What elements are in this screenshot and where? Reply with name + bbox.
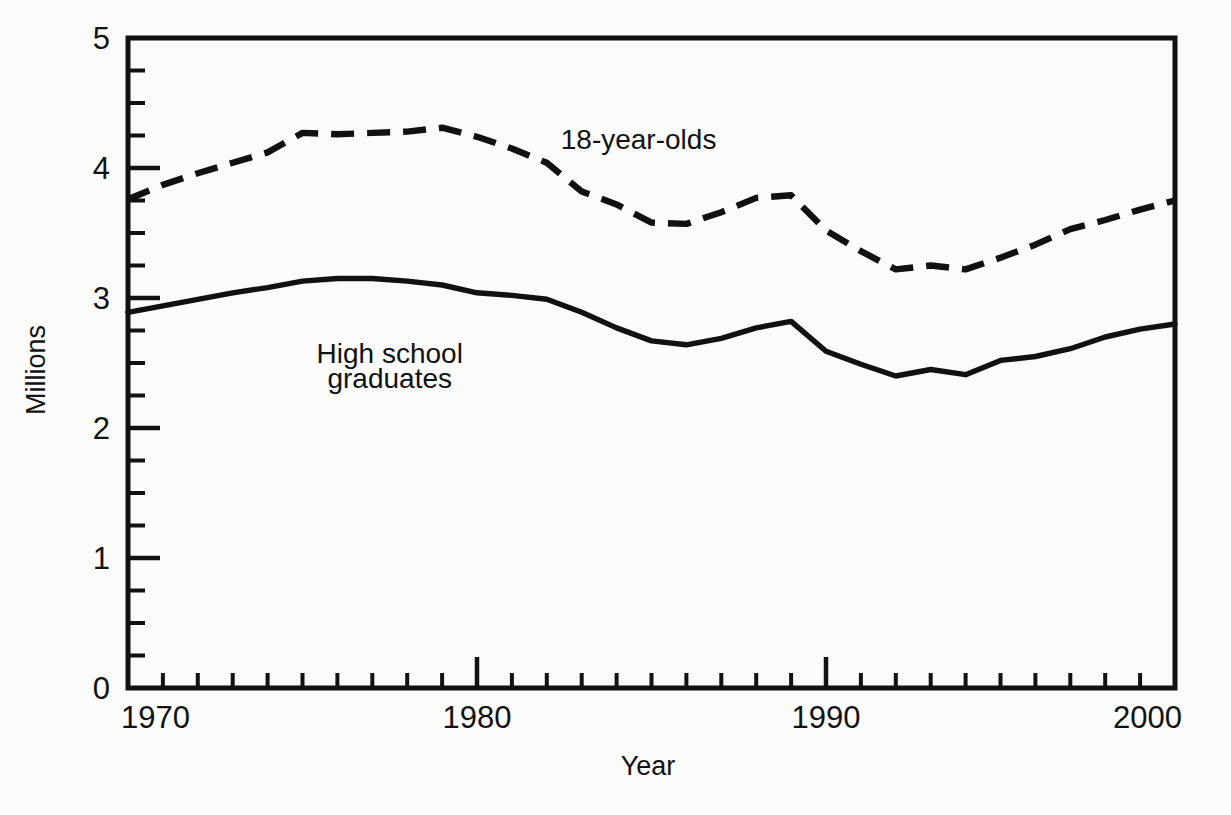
x-axis-title: Year <box>621 751 676 781</box>
series-label-18-year-olds: 18-year-olds <box>561 124 717 155</box>
x-tick-label: 2000 <box>1113 700 1182 735</box>
y-tick-label: 3 <box>93 281 110 316</box>
y-tick-label: 0 <box>93 671 110 706</box>
y-axis-title: Millions <box>21 325 51 415</box>
y-tick-label: 2 <box>93 411 110 446</box>
x-tick-label: 1970 <box>121 700 190 735</box>
series-label-high-school-graduates-line2: graduates <box>327 363 452 394</box>
x-tick-label: 1990 <box>792 700 861 735</box>
y-tick-label: 1 <box>93 541 110 576</box>
chart-background <box>0 0 1231 815</box>
chart-figure: 012345 1970198019902000 18-year-olds Hig… <box>0 0 1231 815</box>
y-tick-label: 5 <box>93 21 110 56</box>
y-tick-label: 4 <box>93 151 110 186</box>
x-tick-label: 1980 <box>443 700 512 735</box>
line-chart: 012345 1970198019902000 18-year-olds Hig… <box>0 0 1231 815</box>
